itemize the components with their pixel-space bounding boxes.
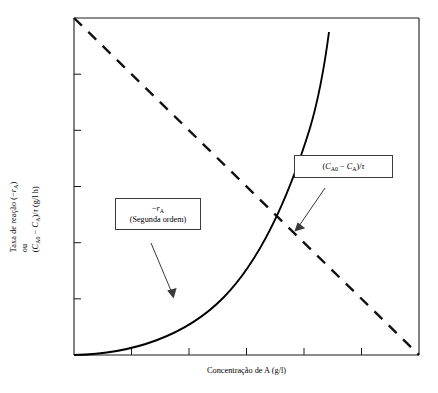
solid-second-order-curve	[74, 32, 329, 355]
annotation-flow-line-1: (CA0 − CA)/τ	[301, 161, 386, 172]
chart-plot-area	[0, 0, 438, 393]
callout-flow-arrow	[294, 188, 325, 232]
y-axis-label-line-3: (CA0 − CA)/τ (g/l h)	[32, 186, 40, 252]
x-axis-ticks	[132, 348, 362, 355]
annotation-box-flow: (CA0 − CA)/τ	[294, 155, 393, 178]
y-axis-ticks	[74, 74, 81, 299]
dashed-mass-balance-line	[74, 18, 419, 355]
chart-figure: Taxa de reação (−rA) ou (CA0 − CA)/τ (g/…	[0, 0, 438, 393]
annotation-box-rate: −rA (Segunda ordem)	[115, 198, 201, 230]
annotation-rate-line-2: (Segunda ordem)	[122, 214, 194, 225]
y-axis-label: Taxa de reação (−rA) ou (CA0 − CA)/τ (g/…	[6, 125, 56, 245]
annotation-rate-line-1: −rA	[122, 203, 194, 214]
y-axis-label-line-2: ou	[21, 244, 29, 252]
x-axis-label: Concentração de A (g/l)	[74, 366, 419, 375]
y-axis-label-line-1: Taxa de reação (−rA)	[10, 182, 18, 253]
callout-rate-arrow	[151, 243, 177, 299]
